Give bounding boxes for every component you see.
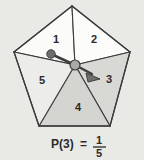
- fraction-denominator: 5: [96, 147, 102, 159]
- sector-label-5: 5: [39, 74, 45, 86]
- spinner-knob[interactable]: [47, 50, 55, 58]
- sector-label-2: 2: [91, 33, 97, 45]
- sector-label-4: 4: [75, 101, 82, 113]
- probability-label: P(3): [51, 137, 74, 151]
- sector-label-3: 3: [106, 73, 112, 85]
- spinner-hub[interactable]: [70, 60, 80, 70]
- fraction-numerator: 1: [96, 134, 102, 146]
- sector-label-1: 1: [53, 33, 59, 45]
- pentagon-spinner-figure: 1 2 3 4 5 P(3) = 1 5: [0, 0, 144, 160]
- equals-sign: =: [80, 137, 87, 151]
